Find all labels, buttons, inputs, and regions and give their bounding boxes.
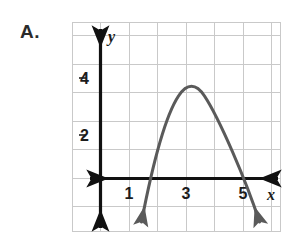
y-axis-label: y <box>106 28 116 46</box>
plot-background <box>72 22 281 232</box>
y-tick-label-2: 2 <box>80 127 89 144</box>
x-axis-label: x <box>266 186 275 203</box>
x-tick-label-3: 3 <box>182 185 191 202</box>
graph-figure: 4 2 1 3 5 y x <box>0 0 293 242</box>
x-tick-label-1: 1 <box>125 185 134 202</box>
y-tick-label-4: 4 <box>80 70 89 87</box>
